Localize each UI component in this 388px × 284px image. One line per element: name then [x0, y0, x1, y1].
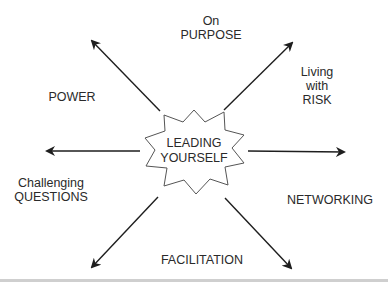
- label-challenging-questions-line2: QUESTIONS: [14, 190, 88, 204]
- label-on-purpose-line2: PURPOSE: [180, 28, 241, 42]
- label-on-purpose-line1: On: [180, 14, 241, 28]
- label-living-with-risk-line1: Living: [301, 65, 334, 79]
- bottom-divider: [0, 279, 388, 282]
- center-label: LEADING YOURSELF: [160, 136, 227, 166]
- label-living-with-risk-line3: RISK: [301, 93, 334, 107]
- label-networking: NETWORKING: [287, 193, 373, 207]
- label-challenging-questions: Challenging QUESTIONS: [14, 176, 88, 204]
- label-on-purpose: On PURPOSE: [180, 14, 241, 42]
- label-challenging-questions-line1: Challenging: [14, 176, 88, 190]
- label-living-with-risk: Living with RISK: [301, 65, 334, 107]
- label-power: POWER: [48, 90, 95, 104]
- arrow-nw: [92, 41, 160, 111]
- label-living-with-risk-line2: with: [301, 79, 334, 93]
- center-label-line2: YOURSELF: [160, 151, 227, 166]
- arrow-sw: [92, 197, 158, 267]
- center-label-line1: LEADING: [160, 136, 227, 151]
- label-facilitation: FACILITATION: [161, 253, 243, 267]
- arrow-ne: [224, 43, 292, 110]
- arrow-e: [248, 151, 344, 152]
